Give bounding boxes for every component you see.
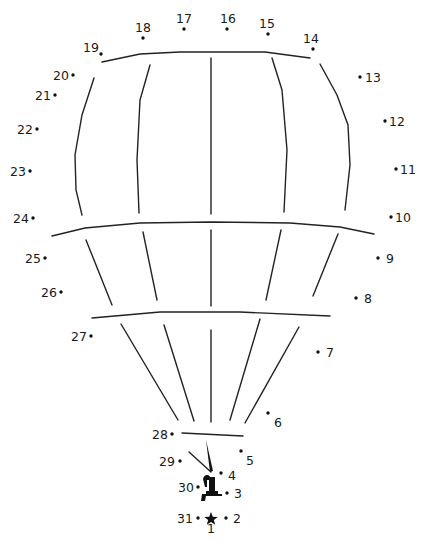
- dot-number-label: 29: [159, 454, 175, 469]
- dot-point[interactable]: 2: [224, 511, 241, 526]
- dot-point[interactable]: 18: [135, 20, 151, 40]
- dot-number-label: 28: [152, 427, 168, 442]
- dot-number-label: 18: [135, 20, 151, 35]
- dot-marker[interactable]: [182, 27, 185, 30]
- dot-marker[interactable]: [389, 215, 392, 218]
- dot-point[interactable]: 16: [220, 11, 236, 31]
- dot-marker[interactable]: [354, 296, 357, 299]
- dot-number-label: 11: [400, 162, 416, 177]
- dot-number-label: 5: [246, 453, 254, 468]
- dot-marker[interactable]: [316, 350, 319, 353]
- dot-point[interactable]: 17: [176, 11, 192, 31]
- dot-point[interactable]: 4: [219, 468, 236, 483]
- dot-number-label: 12: [389, 114, 405, 129]
- dot-marker[interactable]: [383, 119, 386, 122]
- dot-marker[interactable]: [239, 449, 242, 452]
- dot-point[interactable]: 28: [152, 427, 174, 442]
- dot-point[interactable]: 29: [159, 454, 182, 469]
- dot-point[interactable]: 15: [259, 16, 275, 36]
- dot-point[interactable]: 12: [383, 114, 405, 129]
- dot-marker[interactable]: [311, 47, 314, 50]
- dot-point[interactable]: 11: [394, 162, 416, 177]
- dot-marker[interactable]: [266, 411, 269, 414]
- dot-marker[interactable]: [358, 75, 361, 78]
- dot-marker[interactable]: [266, 32, 269, 35]
- dot-marker[interactable]: [196, 516, 199, 519]
- top-rim-line: [102, 52, 310, 62]
- dot-marker[interactable]: [141, 36, 144, 39]
- basket-top-line: [182, 433, 243, 436]
- dot-point[interactable]: 8: [354, 291, 372, 306]
- dot-number-label: 4: [228, 468, 236, 483]
- dot-point[interactable]: 23: [10, 164, 32, 179]
- dot-marker[interactable]: [376, 256, 379, 259]
- dot-marker[interactable]: [225, 491, 228, 494]
- dot-marker[interactable]: [225, 27, 228, 30]
- middle-panel-line: [266, 230, 281, 300]
- dot-marker[interactable]: [28, 169, 31, 172]
- dot-number-label: 15: [259, 16, 275, 31]
- dot-marker[interactable]: [99, 52, 102, 55]
- dot-number-label: 27: [71, 329, 87, 344]
- dot-marker[interactable]: [71, 73, 74, 76]
- dot-point[interactable]: 13: [358, 70, 381, 85]
- dot-number-label: 17: [176, 11, 192, 26]
- dot-marker[interactable]: [196, 485, 199, 488]
- dot-point[interactable]: 7: [316, 345, 334, 360]
- basket-icon: [201, 475, 222, 501]
- dot-point[interactable]: 30: [178, 480, 200, 495]
- rope-line: [206, 440, 213, 472]
- dot-number-label: 9: [386, 251, 394, 266]
- dot-point[interactable]: 27: [71, 329, 93, 344]
- dot-number-label: 2: [233, 511, 241, 526]
- dot-marker[interactable]: [89, 334, 92, 337]
- dot-marker[interactable]: [53, 93, 56, 96]
- middle-panel-line: [313, 234, 338, 296]
- upper-panel-line: [137, 65, 150, 213]
- dot-number-label: 26: [41, 285, 57, 300]
- dot-number-label: 19: [83, 40, 99, 55]
- dot-number-label: 21: [35, 88, 51, 103]
- upper-panel-line: [320, 64, 350, 210]
- dot-point[interactable]: 3: [225, 486, 242, 501]
- dot-marker[interactable]: [43, 256, 46, 259]
- dot-point[interactable]: 10: [389, 210, 411, 225]
- upper-panel-line: [75, 78, 94, 215]
- dot-number-label: 31: [177, 511, 193, 526]
- dot-number-label: 3: [234, 486, 242, 501]
- lower-panel-line: [164, 325, 194, 421]
- dot-marker[interactable]: [224, 516, 227, 519]
- dot-number-label: 16: [220, 11, 236, 26]
- dot-number-label: 8: [364, 291, 372, 306]
- upper-panel-line: [272, 58, 287, 212]
- dot-point[interactable]: 20: [53, 68, 75, 83]
- dot-marker[interactable]: [35, 127, 38, 130]
- dot-point[interactable]: 22: [17, 122, 39, 137]
- dot-marker[interactable]: [170, 432, 173, 435]
- dot-to-dot-canvas: 1234567891011121314151617181920212223242…: [0, 0, 428, 548]
- dot-point[interactable]: 19: [83, 40, 103, 56]
- rope-line: [189, 452, 211, 472]
- dot-point[interactable]: 21: [35, 88, 57, 103]
- dot-marker[interactable]: [394, 167, 397, 170]
- lower-rim-line: [92, 312, 330, 318]
- dot-point[interactable]: 9: [376, 251, 394, 266]
- dot-marker[interactable]: [219, 471, 222, 474]
- dot-point[interactable]: 25: [25, 251, 47, 266]
- middle-rim-line: [52, 222, 374, 236]
- dot-point[interactable]: 26: [41, 285, 63, 300]
- dot-marker[interactable]: [178, 459, 181, 462]
- dot-number-label: 14: [303, 31, 319, 46]
- dot-number-label: 10: [395, 210, 411, 225]
- dot-marker[interactable]: [59, 290, 62, 293]
- dot-point[interactable]: 6: [266, 411, 282, 430]
- dot-point[interactable]: 24: [13, 211, 35, 226]
- dot-point[interactable]: 31: [177, 511, 200, 526]
- dot-number-label: 25: [25, 251, 41, 266]
- dot-number-label: 20: [53, 68, 69, 83]
- dot-point[interactable]: 14: [303, 31, 319, 51]
- dot-number-label: 7: [326, 345, 334, 360]
- dot-marker[interactable]: [31, 216, 34, 219]
- dot-point[interactable]: 5: [239, 449, 254, 468]
- numbered-dots: 1234567891011121314151617181920212223242…: [10, 11, 416, 536]
